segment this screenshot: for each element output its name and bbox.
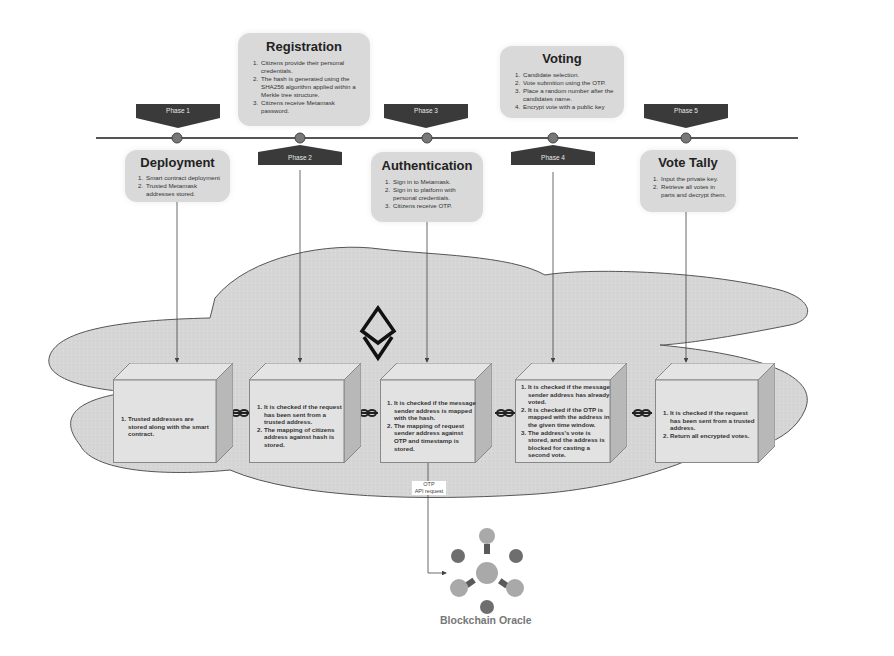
block-text: It is checked if the message sender addr… <box>518 383 611 459</box>
timeline <box>96 133 798 143</box>
stage-steps: Smart contract deployment Trusted Metama… <box>131 174 224 198</box>
cube-shape <box>113 363 233 463</box>
stage-title: Deployment <box>131 155 224 170</box>
stage-title: Vote Tally <box>646 155 730 170</box>
stage-card-vote-tally: Vote Tally Input the private key. Retrie… <box>640 150 736 212</box>
block-2: It is checked if the request has been se… <box>249 363 361 463</box>
block-1: Trusted addresses are stored along with … <box>113 363 233 463</box>
stage-card-voting: Voting Candidate selection. Vote submiti… <box>500 46 624 118</box>
block-5: It is checked if the request has been se… <box>655 363 775 463</box>
block-text: It is checked if the request has been se… <box>660 409 756 439</box>
block-4: It is checked if the message sender addr… <box>515 363 627 463</box>
phase-label-5: Phase 5 <box>644 107 728 129</box>
stage-card-deployment: Deployment Smart contract deployment Tru… <box>125 150 230 202</box>
stage-title: Registration <box>246 39 362 54</box>
phase-label-4: Phase 4 <box>511 154 595 176</box>
phase-label-1: Phase 1 <box>136 107 220 129</box>
diagram-canvas <box>0 0 894 656</box>
phase-label-2: Phase 2 <box>258 154 342 176</box>
stage-steps: Citizens provide their personal credenti… <box>246 59 362 115</box>
stage-card-authentication: Authentication Sign in to Metamask. Sign… <box>371 152 483 222</box>
stage-title: Authentication <box>378 158 476 173</box>
stage-steps: Input the private key. Retrieve all vote… <box>646 175 730 199</box>
api-request-label: OTP API request <box>412 481 446 495</box>
block-3: It is checked if the message sender addr… <box>380 363 492 463</box>
stage-steps: Candidate selection. Vote submition usin… <box>508 71 616 111</box>
block-text: It is checked if the message sender addr… <box>384 399 476 452</box>
block-text: It is checked if the request has been se… <box>254 403 344 449</box>
phase-label-3: Phase 3 <box>384 107 468 129</box>
oracle-title: Blockchain Oracle <box>440 614 532 626</box>
stage-card-registration: Registration Citizens provide their pers… <box>238 33 370 126</box>
block-text: Trusted addresses are stored along with … <box>118 415 214 438</box>
stage-steps: Sign in to Metamask. Sign in to platform… <box>378 178 476 210</box>
stage-title: Voting <box>508 51 616 66</box>
oracle-network-icon <box>450 528 524 614</box>
